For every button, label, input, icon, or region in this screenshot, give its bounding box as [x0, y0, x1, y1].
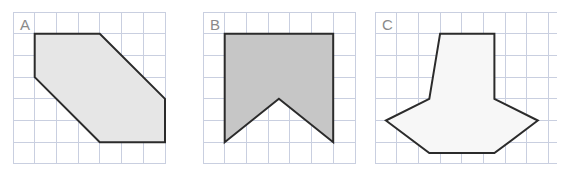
shape-a-polygon: [35, 34, 165, 143]
panel-b: B: [191, 0, 373, 185]
panel-b-canvas: B: [191, 0, 373, 185]
panel-b-label: B: [210, 16, 220, 33]
panel-a-label: A: [20, 16, 30, 33]
panel-a-canvas: A: [0, 0, 191, 185]
panel-c-label: C: [382, 16, 393, 33]
shape-c-polygon: [386, 34, 538, 153]
shape-b-polygon: [225, 34, 334, 143]
panel-c-canvas: C: [373, 0, 573, 185]
panel-c: C: [373, 0, 573, 185]
panel-a: A: [0, 0, 191, 185]
shapes-figure: A B: [0, 0, 573, 185]
